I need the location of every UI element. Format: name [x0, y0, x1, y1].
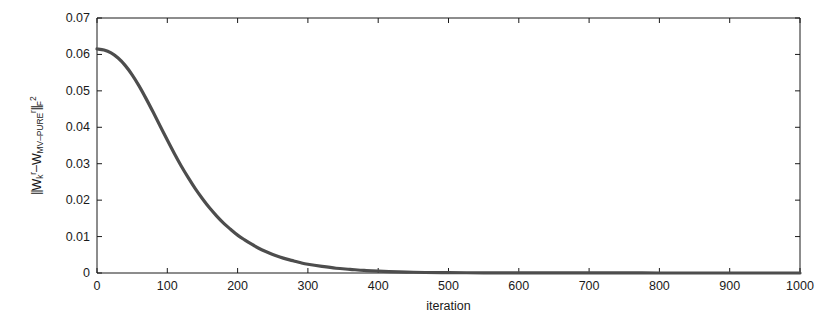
convergence-curve — [97, 49, 800, 273]
axes-group — [97, 18, 800, 273]
plot-area — [0, 0, 826, 327]
convergence-chart-figure: ||Wkr–WMV–PUREr||F2 00.010.020.030.040.0… — [0, 0, 826, 327]
